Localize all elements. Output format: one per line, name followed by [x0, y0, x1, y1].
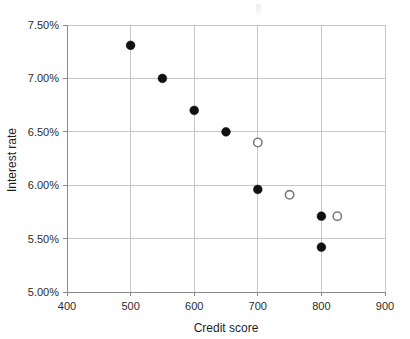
x-tick-label: 500: [121, 300, 139, 312]
axis-lines: [67, 25, 385, 292]
y-tick-label: 7.00%: [28, 72, 59, 84]
y-tick-label: 6.50%: [28, 126, 59, 138]
data-point-filled: [126, 41, 135, 50]
x-axis-tick-labels: 400500600700800900: [58, 300, 394, 312]
x-tick-label: 900: [376, 300, 394, 312]
horizontal-gridlines: [67, 25, 385, 292]
y-axis-tick-labels: 5.00%5.50%6.00%6.50%7.00%7.50%: [28, 19, 59, 298]
x-axis-title: Credit score: [194, 321, 259, 335]
data-point-filled: [222, 127, 231, 136]
x-tick-label: 600: [185, 300, 203, 312]
scatter-chart: 5.00%5.50%6.00%6.50%7.00%7.50% 400500600…: [0, 0, 410, 339]
tick-marks: [63, 25, 385, 296]
data-points: [126, 41, 341, 252]
data-point-filled: [190, 106, 199, 115]
x-tick-label: 700: [249, 300, 267, 312]
data-point-filled: [158, 74, 167, 83]
data-point-open: [254, 138, 262, 146]
data-point-open: [285, 191, 293, 199]
y-tick-label: 5.50%: [28, 233, 59, 245]
x-tick-label: 800: [312, 300, 330, 312]
y-tick-label: 7.50%: [28, 19, 59, 31]
x-tick-label: 400: [58, 300, 76, 312]
plot-canvas: 5.00%5.50%6.00%6.50%7.00%7.50% 400500600…: [0, 0, 410, 339]
data-point-filled: [253, 185, 262, 194]
vertical-gridlines: [67, 25, 385, 292]
data-point-filled: [317, 212, 326, 221]
y-tick-label: 6.00%: [28, 179, 59, 191]
data-point-filled: [317, 243, 326, 252]
y-tick-label: 5.00%: [28, 286, 59, 298]
y-axis-title: Interest rate: [5, 128, 19, 192]
data-point-open: [333, 212, 341, 220]
